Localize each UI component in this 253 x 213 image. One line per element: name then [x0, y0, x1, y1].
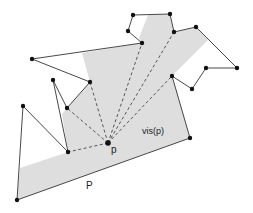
vertex-dot [194, 25, 198, 29]
vertex-dot [88, 80, 92, 84]
vertex-dot [204, 66, 208, 70]
visibility-region-label: vis(p) [142, 126, 164, 136]
vertex-dot [190, 87, 194, 91]
vertex-dot [21, 104, 25, 108]
vertex-dot [66, 150, 70, 154]
vertex-dot [65, 106, 69, 110]
vertex-dot [126, 29, 130, 33]
vertex-dot [140, 41, 144, 45]
point-p-marker [105, 140, 111, 146]
polygon-label: P [86, 180, 93, 191]
vertex-dot [30, 57, 34, 61]
vertex-dot [235, 66, 239, 70]
vertex-dot [51, 78, 55, 82]
vertex-dot [168, 12, 172, 16]
vertex-dot [188, 136, 192, 140]
visibility-diagram: p vis(p) P [0, 0, 253, 213]
point-p-label: p [111, 144, 117, 155]
visibility-region [17, 14, 208, 200]
vertex-dot [131, 13, 135, 17]
vertex-dot [15, 198, 19, 202]
vertex-dot [172, 30, 176, 34]
diagram-canvas: p vis(p) P [0, 0, 253, 213]
vertex-dot [170, 74, 174, 78]
